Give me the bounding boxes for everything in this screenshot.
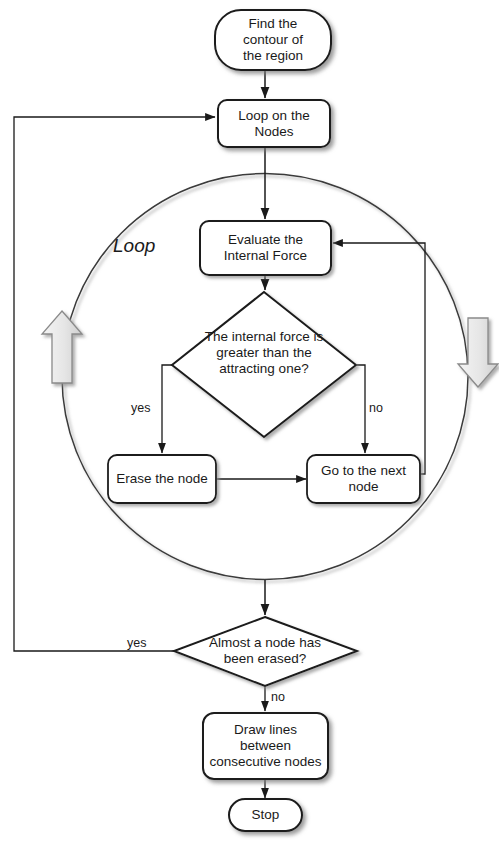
node-evaluate[interactable] bbox=[200, 221, 331, 275]
node-drawlines[interactable] bbox=[203, 713, 328, 779]
loop-region-label: Loop bbox=[113, 235, 155, 257]
edge-label-yes-decision1: yes bbox=[131, 401, 150, 415]
edge-label-no-decision1: no bbox=[369, 401, 383, 415]
flowchart-graphics bbox=[0, 0, 499, 849]
flowchart-canvas: Find the contour of the region Loop on t… bbox=[0, 0, 499, 849]
node-decision2[interactable] bbox=[174, 617, 357, 686]
edge-label-no-decision2: no bbox=[271, 690, 285, 704]
edge-decision1-yes-to-erase bbox=[162, 365, 172, 453]
node-start[interactable] bbox=[215, 10, 331, 70]
node-decision1[interactable] bbox=[172, 292, 356, 437]
edge-decision1-no-to-nextnode bbox=[357, 365, 365, 453]
loop-arrow-left-up-icon bbox=[42, 311, 82, 383]
edge-decision2-yes-to-loopnodes bbox=[14, 117, 215, 651]
node-nextnode[interactable] bbox=[307, 455, 420, 503]
node-erase[interactable] bbox=[108, 455, 216, 503]
edge-label-yes-decision2: yes bbox=[127, 636, 146, 650]
loop-arrow-right-down-icon bbox=[458, 318, 498, 387]
node-stop[interactable] bbox=[229, 799, 302, 831]
node-loopnodes[interactable] bbox=[218, 100, 330, 147]
